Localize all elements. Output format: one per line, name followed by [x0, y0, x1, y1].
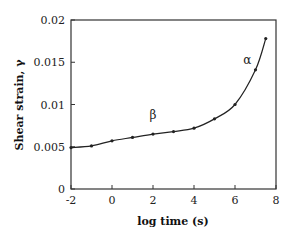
- x-tick-label: 8: [273, 194, 280, 207]
- chart: -20246800.0050.010.0150.02 βα log time (…: [0, 0, 290, 236]
- data-point: [90, 144, 93, 147]
- plot-frame: [71, 20, 276, 189]
- y-tick-label: 0.02: [41, 14, 66, 27]
- annotation-label: α: [243, 53, 251, 67]
- data-series: [69, 37, 267, 149]
- data-point: [192, 127, 195, 130]
- data-point: [69, 146, 72, 149]
- x-tick-label: 0: [109, 194, 116, 207]
- y-tick-label: 0: [58, 183, 65, 196]
- series-line: [71, 39, 266, 148]
- data-point: [110, 139, 113, 142]
- annotations: βα: [150, 53, 252, 122]
- y-axis-label: Shear strain, γ: [13, 59, 26, 151]
- y-tick-label: 0.01: [41, 99, 66, 112]
- x-tick-label: 6: [232, 194, 239, 207]
- data-point: [172, 130, 175, 133]
- data-point: [213, 117, 216, 120]
- x-tick-label: -2: [66, 194, 77, 207]
- plot-border: [71, 20, 276, 189]
- annotation-label: β: [150, 108, 157, 122]
- x-tick-label: 2: [150, 194, 157, 207]
- x-tick-label: 4: [191, 194, 198, 207]
- x-axis-label: log time (s): [137, 215, 208, 228]
- data-point: [131, 136, 134, 139]
- y-tick-label: 0.015: [34, 56, 66, 69]
- data-point: [233, 103, 236, 106]
- data-point: [264, 37, 267, 40]
- y-tick-label: 0.005: [34, 141, 66, 154]
- data-point: [254, 68, 257, 71]
- data-point: [151, 132, 154, 135]
